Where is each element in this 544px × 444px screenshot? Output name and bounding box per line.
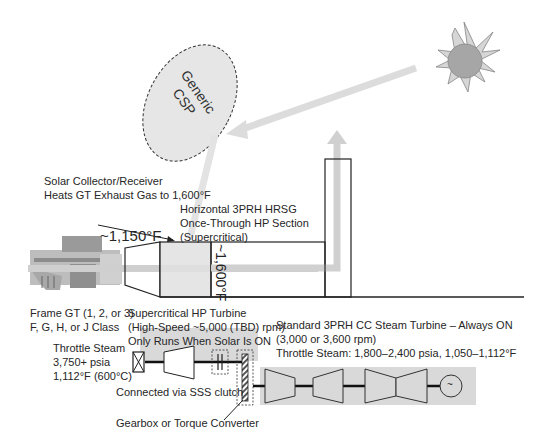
gearbox-label: Gearbox or Torque Converter xyxy=(116,416,259,430)
hp-turbine-label: Supercritical HP Turbine (High-Speed ~5,… xyxy=(128,306,285,348)
generator-symbol: ~ xyxy=(447,378,453,392)
gas-turbine-label: Frame GT (1, 2, or 3) F, G, H, or J Clas… xyxy=(30,306,134,334)
sunlight-beam-arrow xyxy=(226,68,416,139)
throttle-valve-icon xyxy=(133,352,144,372)
cc-steam-turbine-label: Standard 3PRH CC Steam Turbine – Always … xyxy=(276,318,516,360)
solar-receiver-section xyxy=(160,242,211,297)
stack-arrowhead xyxy=(327,130,347,144)
solar-collector-label: Solar Collector/Receiver Heats GT Exhaus… xyxy=(44,174,211,202)
receiver-outlet-temp-label: ~1,600°F xyxy=(213,244,229,301)
sss-clutch-label: Connected via SSS clutch xyxy=(116,385,243,399)
transition-duct xyxy=(125,242,160,297)
sun-icon xyxy=(436,22,500,92)
hp-turbine-icon xyxy=(164,346,194,379)
hp-throttle-steam-label: Throttle Steam 3,750+ psia 1,112°F (600°… xyxy=(53,341,132,383)
hrsg-label: Horizontal 3PRH HRSG Once-Through HP Sec… xyxy=(180,202,309,244)
gt-exhaust-temp-label: ~1,150°F xyxy=(100,227,161,245)
